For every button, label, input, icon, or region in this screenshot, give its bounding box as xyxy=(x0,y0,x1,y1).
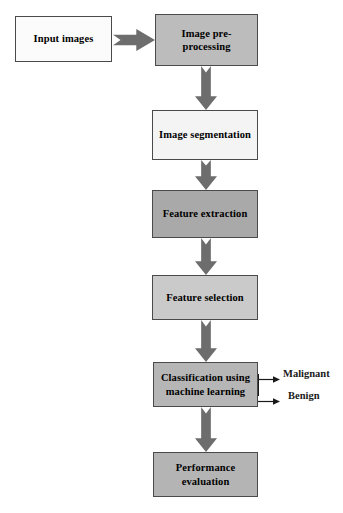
node-image-pre-processing: Image pre- processing xyxy=(155,14,258,66)
block-arrow-down-icon xyxy=(195,66,217,110)
node-performance-evaluation: Performance evaluation xyxy=(153,452,258,497)
block-arrow-down-icon xyxy=(195,160,217,190)
node-classification-using-machine-learning: Classification using machine learning xyxy=(153,362,258,407)
branch-label-malignant: Malignant xyxy=(283,368,330,379)
node-image-segmentation: Image segmentation xyxy=(152,110,258,160)
branch-label-benign: Benign xyxy=(288,390,320,401)
branch-split-connector xyxy=(258,374,259,396)
branch-arrow-benign-icon xyxy=(258,392,280,401)
node-label: Input images xyxy=(34,32,94,45)
node-label: Image pre- processing xyxy=(181,27,231,53)
node-label: Classification using machine learning xyxy=(161,371,250,397)
branch-arrow-malignant-icon xyxy=(258,370,280,379)
node-label: Performance evaluation xyxy=(176,461,235,487)
node-label: Feature extraction xyxy=(163,207,248,220)
node-feature-extraction: Feature extraction xyxy=(152,190,258,238)
node-feature-selection: Feature selection xyxy=(152,275,258,320)
block-arrow-down-icon xyxy=(195,407,217,452)
block-arrow-right-icon xyxy=(113,29,155,51)
node-label: Image segmentation xyxy=(159,128,251,141)
block-arrow-down-icon xyxy=(195,238,217,275)
flowchart-canvas: Input images Image pre- processing Image… xyxy=(0,0,343,513)
block-arrow-down-icon xyxy=(195,320,217,362)
node-input-images: Input images xyxy=(15,16,112,62)
node-label: Feature selection xyxy=(166,291,244,304)
